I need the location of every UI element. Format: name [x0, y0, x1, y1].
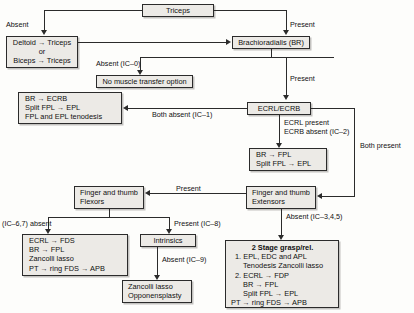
node-no-muscle-transfer-label: No muscle transfer option — [101, 77, 188, 86]
arrowhead-to-extensors — [317, 193, 322, 199]
edge-br-present-v — [286, 57, 287, 96]
edge-label-present3: Present — [176, 184, 201, 193]
edge-label-absent-ic0: Absent (IC–0) — [96, 59, 140, 68]
edge-label-absent-ic345: Absent (IC–3,4,5) — [286, 212, 342, 221]
flowchart-canvas: Triceps Absent Present Deltoid → Triceps… — [0, 0, 414, 313]
node-two-stage-line1: 1. EPL, EDC and APL — [231, 252, 334, 261]
node-ecrl-fds-line2: BR → FPL — [29, 245, 123, 254]
node-ecrl-fds: ECRL → FDS BR → FPL Zancolli lasso PT → … — [22, 234, 128, 276]
node-flexors-line2: Flexors — [80, 197, 139, 206]
node-br-ecrb-line1: BR → ECRB — [25, 94, 117, 103]
arrowhead-to-brachioradialis — [283, 30, 289, 35]
node-two-stage-line5: Split FPL → EPL — [231, 289, 334, 298]
node-ecrl-fds-line1: ECRL → FDS — [29, 236, 123, 245]
node-deltoid-biceps-triceps: Deltoid → Triceps or Biceps → Triceps — [6, 36, 78, 68]
edge-extensors-to-flexors — [150, 193, 246, 194]
node-intrinsics-label: Intrinsics — [145, 236, 191, 245]
node-ecrl-fds-line4: PT → ring FDS → APB — [29, 264, 123, 273]
node-zancolli-opponensplasty: Zancolli lasso Opponensplasty — [122, 280, 192, 303]
edge-flexors-down-stem — [109, 209, 110, 217]
edge-extensors-down-v — [281, 209, 282, 236]
node-extensors-line2: Extensors — [252, 197, 311, 206]
arrowhead-to-br — [226, 39, 231, 45]
edge-label-ecrl-present: ECRL present — [284, 118, 329, 127]
edge-label-ic67-absent: (IC–6,7) absent — [2, 219, 52, 228]
edge-br-split-h — [140, 57, 334, 58]
edge-deltoid-to-br — [78, 42, 226, 43]
edge-triceps-to-absent-v — [44, 10, 45, 31]
edge-both-present-h — [322, 196, 355, 197]
node-deltoid-line3: Biceps → Triceps — [11, 56, 73, 65]
node-finger-thumb-flexors: Finger and thumb Flexors — [74, 186, 144, 209]
edge-intrinsics-down-v — [157, 247, 158, 276]
arrowhead-to-br-ecrb — [123, 105, 128, 111]
arrowhead-to-deltoid — [41, 30, 47, 35]
node-brachioradialis-label: Brachioradialis (BR) — [237, 38, 305, 47]
node-two-stage-grasp-release: 2 Stage grasp/rel. 1. EPL, EDC and APL T… — [225, 240, 339, 308]
edge-triceps-to-absent-h — [44, 10, 143, 11]
arrowhead-to-flexors — [145, 190, 150, 196]
node-intrinsics: Intrinsics — [140, 234, 196, 247]
edge-label-both-absent-ic1: Both absent (IC–1) — [152, 110, 212, 119]
node-two-stage-line4: BR → FPL — [231, 280, 334, 289]
edge-ecrl-right-h — [311, 108, 355, 109]
node-triceps: Triceps — [142, 4, 214, 17]
node-br-ecrb-line3: FPL and EPL tenodesis — [25, 112, 117, 121]
edge-label-absent-ic9: Absent (IC–9) — [162, 255, 206, 264]
edge-triceps-to-present-h — [214, 10, 287, 11]
node-two-stage-line3: 2. ECRL → FDP — [231, 271, 334, 280]
node-two-stage-line6: PT → ring FDS → APB — [231, 298, 334, 307]
edge-label-present: Present — [290, 20, 315, 29]
edge-ecrl-present-v — [279, 115, 280, 144]
edge-both-absent — [128, 108, 247, 109]
arrowhead-to-ecrl-ecrb — [283, 95, 289, 100]
edge-br-down — [271, 49, 272, 57]
edge-flexors-split-h — [48, 217, 170, 218]
node-br-ecrb: BR → ECRB Split FPL → EPL FPL and EPL te… — [18, 92, 122, 124]
edge-triceps-to-present-v — [286, 10, 287, 31]
edge-label-present-ic8: Present (IC–8) — [174, 219, 221, 228]
node-deltoid-line2: or — [11, 47, 73, 56]
node-two-stage-title: 2 Stage grasp/rel. — [231, 243, 334, 252]
edge-label-ecrb-absent-ic2: ECRB absent (IC–2) — [284, 127, 350, 136]
edge-label-absent: Absent — [6, 20, 28, 29]
node-br-fpl: BR → FPL Split FPL → EPL — [249, 148, 327, 171]
node-flexors-line1: Finger and thumb — [80, 188, 139, 197]
node-no-muscle-transfer: No muscle transfer option — [96, 75, 193, 88]
node-br-fpl-line1: BR → FPL — [256, 150, 322, 159]
node-ecrl-fds-line3: Zancolli lasso — [29, 254, 123, 263]
node-finger-thumb-extensors: Finger and thumb Extensors — [246, 186, 316, 209]
node-br-ecrb-line2: Split FPL → EPL — [25, 103, 117, 112]
edge-label-both-present: Both present — [360, 141, 401, 150]
node-br-fpl-line2: Split FPL → EPL — [256, 159, 322, 168]
edge-label-present2: Present — [290, 74, 315, 83]
node-deltoid-line1: Deltoid → Triceps — [11, 38, 73, 47]
node-zancolli-line1: Zancolli lasso — [128, 282, 187, 291]
edge-both-present-v — [354, 108, 355, 196]
node-ecrl-ecrb: ECRL/ECRB — [247, 102, 311, 115]
node-brachioradialis: Brachioradialis (BR) — [232, 36, 310, 49]
node-ecrl-ecrb-label: ECRL/ECRB — [252, 104, 306, 113]
node-two-stage-line2: Tenodesis Zancolli lasso — [231, 261, 334, 270]
node-zancolli-line2: Opponensplasty — [128, 291, 187, 300]
node-triceps-label: Triceps — [147, 6, 209, 15]
node-extensors-line1: Finger and thumb — [252, 188, 311, 197]
